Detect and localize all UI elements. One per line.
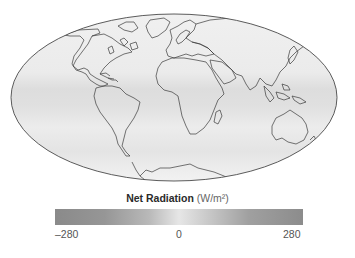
world-map — [0, 0, 355, 190]
legend-title-unit: (W/m²) — [197, 192, 229, 204]
colorbar-tick-max: 280 — [283, 228, 301, 240]
legend-title-label: Net Radiation — [126, 192, 194, 204]
colorbar — [55, 209, 303, 225]
colorbar-tick-min: –280 — [55, 228, 78, 240]
legend-title: Net Radiation (W/m²) — [0, 192, 355, 204]
globe-fill — [11, 14, 337, 181]
colorbar-tick-mid: 0 — [176, 228, 182, 240]
